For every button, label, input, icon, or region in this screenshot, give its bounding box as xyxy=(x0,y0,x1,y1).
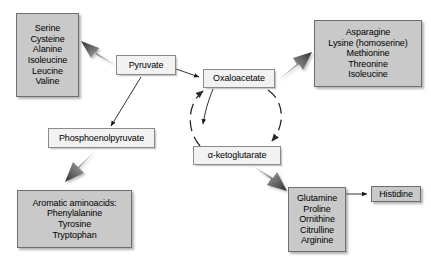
arrow-cycle-ketoglutarate-to-oxaloacetate xyxy=(190,91,203,146)
amino-acid-threonine: Threonine xyxy=(348,59,388,70)
amino-acid-isoleucine-oaa: Isoleucine xyxy=(348,69,388,80)
node-pyruvate-amino-acid-family: Serine Cysteine Alanine Isoleucine Leuci… xyxy=(16,13,79,97)
arrow-pyruvate-to-phosphoenolpyruvate xyxy=(111,77,141,126)
node-alpha-ketoglutarate: α-ketoglutarate xyxy=(193,146,281,165)
aromatic-header: Aromatic aminoacids: xyxy=(32,198,116,209)
diagram-canvas: Serine Cysteine Alanine Isoleucine Leuci… xyxy=(0,0,431,269)
amino-acid-citrulline: Citrulline xyxy=(300,225,334,236)
amino-acid-glutamine: Glutamine xyxy=(297,193,337,204)
node-pyruvate: Pyruvate xyxy=(116,55,176,75)
amino-acid-methionine: Methionine xyxy=(346,48,389,59)
node-phosphoenolpyruvate: Phosphoenolpyruvate xyxy=(48,128,155,148)
amino-acid-tyrosine: Tyrosine xyxy=(58,219,91,230)
amino-acid-phenylalanine: Phenylalanine xyxy=(47,208,102,219)
amino-acid-cysteine: Cysteine xyxy=(30,34,64,45)
node-histidine: Histidine xyxy=(371,186,421,202)
amino-acid-valine: Valine xyxy=(36,76,60,87)
node-phosphoenolpyruvate-label: Phosphoenolpyruvate xyxy=(59,133,144,144)
amino-acid-alanine: Alanine xyxy=(33,44,62,55)
amino-acid-leucine: Leucine xyxy=(32,66,63,77)
amino-acid-histidine: Histidine xyxy=(379,189,413,200)
amino-acid-serine: Serine xyxy=(35,23,60,34)
node-alpha-ketoglutarate-label: α-ketoglutarate xyxy=(208,150,267,161)
amino-acid-asparagine: Asparagine xyxy=(346,27,391,38)
arrow-pyruvate-to-pyruvate-family xyxy=(81,41,117,66)
arrow-oxaloacetate-to-oxaloacetate-family xyxy=(276,52,312,82)
node-oxaloacetate: Oxaloacetate xyxy=(203,69,275,88)
node-aromatic-amino-acid-family: Aromatic aminoacids: Phenylalanine Tyros… xyxy=(17,190,132,248)
node-oxaloacetate-label: Oxaloacetate xyxy=(213,73,265,84)
amino-acid-isoleucine: Isoleucine xyxy=(28,55,68,66)
arrow-phosphoenolpyruvate-to-aromatic-family xyxy=(65,150,96,182)
amino-acid-arginine: Arginine xyxy=(301,235,333,246)
amino-acid-lysine-homoserine: Lysine (homoserine) xyxy=(328,38,407,49)
amino-acid-proline: Proline xyxy=(303,204,330,215)
arrow-cycle-oxaloacetate-to-ketoglutarate xyxy=(268,90,281,141)
amino-acid-ornithine: Ornithine xyxy=(299,214,335,225)
node-pyruvate-label: Pyruvate xyxy=(129,60,164,71)
node-glutamine-amino-acid-family: Glutamine Proline Ornithine Citrulline A… xyxy=(288,187,346,252)
arrow-pyruvate-to-oxaloacetate xyxy=(176,69,199,77)
arrow-oxaloacetate-to-phosphoenolpyruvate xyxy=(203,89,213,124)
arrow-ketoglutarate-to-glutamine-family xyxy=(253,166,287,191)
node-oxaloacetate-amino-acid-family: Asparagine Lysine (homoserine) Methionin… xyxy=(314,20,422,87)
amino-acid-tryptophan: Tryptophan xyxy=(52,230,96,241)
